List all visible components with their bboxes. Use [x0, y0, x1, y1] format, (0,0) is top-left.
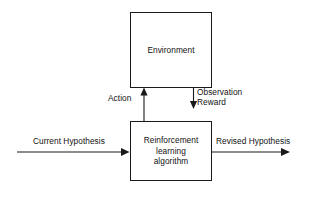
- agent-node: Reinforcement learning algorithm: [130, 121, 212, 181]
- observation-edge-label-line-2: Reward: [197, 97, 242, 107]
- revised-hypothesis-edge-label: Revised Hypothesis: [216, 136, 290, 146]
- environment-node-label: Environment: [147, 45, 194, 56]
- agent-node-label-line-2: learning: [156, 146, 186, 157]
- observation-reward-edge-label: Observation Reward: [197, 87, 242, 107]
- action-arrow: [140, 88, 147, 122]
- current-hypothesis-edge-label: Current Hypothesis: [33, 136, 105, 146]
- agent-node-label-line-3: algorithm: [154, 156, 189, 167]
- environment-node: Environment: [130, 12, 212, 88]
- current-hypothesis-arrow: [17, 148, 130, 156]
- revised-hypothesis-arrow: [212, 148, 290, 156]
- action-edge-label: Action: [108, 93, 131, 103]
- observation-edge-label-line-1: Observation: [197, 87, 242, 97]
- diagram-canvas: Environment Reinforcement learning algor…: [0, 0, 309, 202]
- agent-node-label-line-1: Reinforcement: [144, 135, 199, 146]
